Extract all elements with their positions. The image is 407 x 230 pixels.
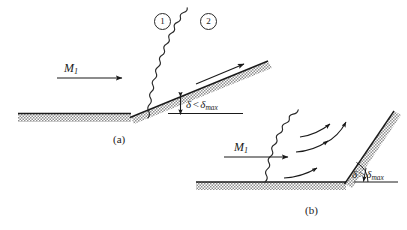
panel-b-deflection-label: δ>δmax: [352, 169, 384, 181]
panel-a-drawing: [18, 8, 272, 124]
figure-drawing: [0, 0, 407, 230]
panel-b-angle-limit-subscript: max: [371, 173, 383, 182]
panel-b-angle-operator: >: [357, 168, 366, 180]
panel-b-streamline-arrow-1: [284, 168, 317, 178]
panel-b-streamline-arrow-2: [296, 141, 328, 152]
panel-b-mach-symbol: M: [234, 140, 244, 154]
panel-a-deflection-label: δ<δmax: [186, 99, 218, 111]
panel-a-mach-symbol: M: [64, 61, 74, 75]
panel-b-mach-subscript: 1: [244, 146, 248, 155]
panel-a-mach-subscript: 1: [74, 67, 78, 76]
panel-b-detached-bow-shock: [265, 110, 298, 182]
panel-a-angle-limit-subscript: max: [205, 103, 217, 112]
panel-b-upstream-wall: [196, 182, 346, 190]
panel-a-caption: (a): [113, 134, 125, 145]
panel-a-mach-label: M1: [64, 62, 78, 76]
figure-container: 1 2 M1 δ<δmax (a) M1 δ>δmax (b): [0, 0, 407, 230]
panel-b-streamline-arrow-3: [300, 124, 330, 137]
panel-b-caption: (b): [305, 205, 318, 216]
region-1-label: 1: [154, 13, 171, 30]
panel-b-mach-label: M1: [234, 141, 248, 155]
panel-a-upstream-wall: [18, 114, 131, 123]
panel-a-angle-operator: <: [191, 98, 200, 110]
region-2-label: 2: [200, 13, 217, 30]
